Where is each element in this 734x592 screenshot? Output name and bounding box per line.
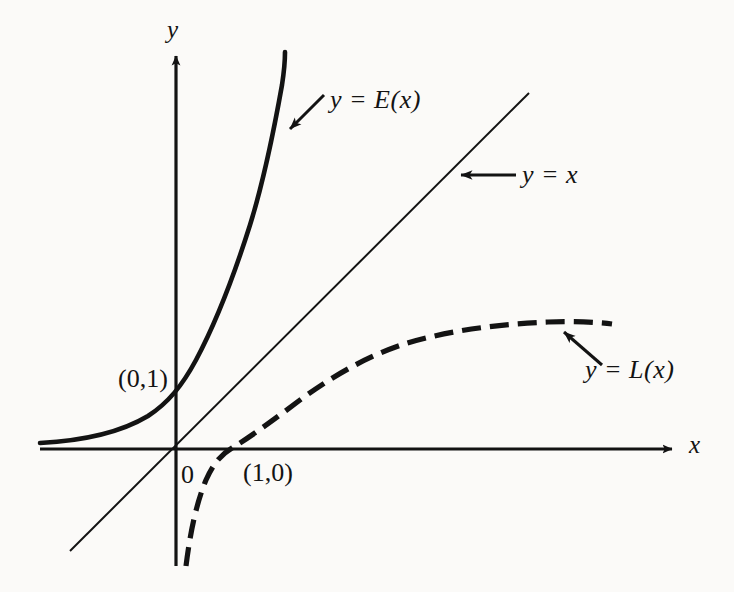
- identity-line: [70, 93, 529, 551]
- point-label-zero-one: (0,1): [118, 366, 168, 392]
- curve-label-logarithm: y = L(x): [585, 357, 674, 383]
- logarithm-curve: [186, 322, 612, 566]
- exponential-pointer-arrow: [290, 95, 324, 129]
- y-axis-label: y: [167, 17, 178, 42]
- curve-label-identity: y = x: [522, 162, 578, 188]
- figure-canvas: x y 0 (0,1) (1,0) y = E(x) y = x y = L(x…: [0, 0, 734, 592]
- origin-label: 0: [181, 462, 194, 488]
- point-label-one-zero: (1,0): [243, 460, 293, 486]
- curve-label-exponential: y = E(x): [330, 87, 421, 113]
- x-axis-label: x: [689, 432, 700, 457]
